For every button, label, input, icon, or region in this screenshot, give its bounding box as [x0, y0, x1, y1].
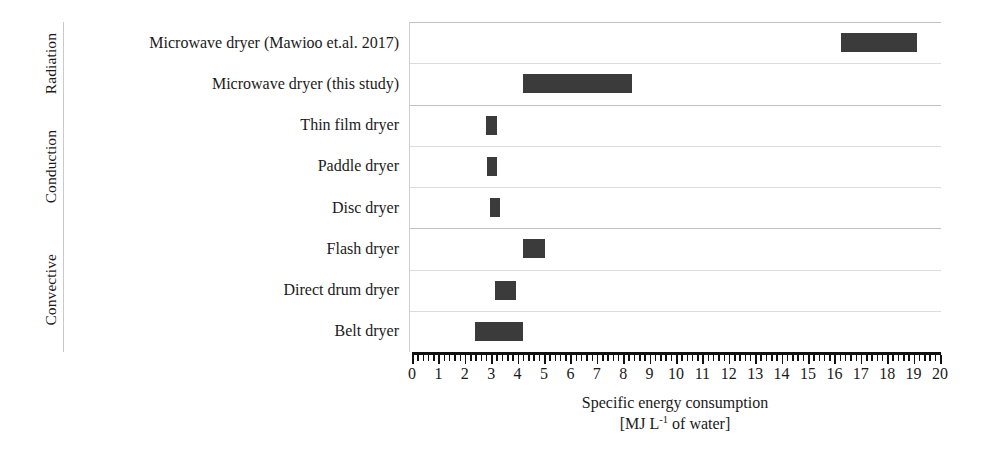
range-bar: [495, 281, 516, 300]
x-tick-minor: [523, 355, 525, 361]
x-tick-minor: [539, 355, 541, 361]
gridline: [410, 270, 941, 271]
x-tick-label: 2: [461, 366, 469, 382]
x-tick-minor: [845, 355, 847, 361]
range-bar: [487, 157, 498, 176]
x-tick-minor: [898, 355, 900, 361]
x-tick-minor: [829, 355, 831, 361]
x-tick-major: [597, 355, 599, 364]
x-tick-major: [491, 355, 493, 364]
x-tick-label: 13: [747, 366, 763, 382]
group-label-text: Conduction: [43, 130, 59, 203]
x-tick-minor: [592, 355, 594, 361]
x-tick-minor: [840, 355, 842, 361]
x-tick-minor: [797, 355, 799, 361]
x-tick-minor: [787, 355, 789, 361]
x-tick-major: [940, 355, 942, 364]
x-tick-label: 19: [906, 366, 922, 382]
x-axis-tick-labels: 01234567891011121314151617181920: [412, 366, 941, 388]
x-tick-major: [782, 355, 784, 364]
x-tick-label: 8: [619, 366, 627, 382]
x-tick-label: 9: [646, 366, 654, 382]
x-tick-minor: [449, 355, 451, 361]
x-tick-minor: [671, 355, 673, 361]
x-tick-label: 1: [434, 366, 442, 382]
x-tick-label: 6: [566, 366, 574, 382]
group-label-text: Radiation: [43, 33, 59, 94]
x-tick-minor: [750, 355, 752, 361]
x-tick-minor: [560, 355, 562, 361]
x-tick-minor: [850, 355, 852, 361]
x-axis-unit-suffix: of water]: [668, 415, 730, 432]
x-axis-ticks: [412, 355, 941, 364]
category-label-column: Microwave dryer (Mawioo et.al. 2017)Micr…: [64, 22, 409, 352]
x-tick-minor: [496, 355, 498, 361]
category-label: Direct drum dryer: [283, 270, 399, 310]
x-tick-major: [729, 355, 731, 364]
x-tick-label: 3: [487, 366, 495, 382]
x-tick-minor: [692, 355, 694, 361]
x-tick-major: [887, 355, 889, 364]
x-tick-major: [834, 355, 836, 364]
x-tick-major: [465, 355, 467, 364]
x-tick-minor: [423, 355, 425, 361]
range-bar: [523, 74, 633, 93]
x-tick-minor: [607, 355, 609, 361]
category-label: Flash dryer: [327, 229, 399, 269]
gridline: [410, 311, 941, 312]
x-axis-title-line1: Specific energy consumption: [409, 392, 941, 413]
x-tick-minor: [745, 355, 747, 361]
category-label: Microwave dryer (Mawioo et.al. 2017): [149, 23, 399, 63]
gridline: [410, 146, 941, 147]
x-tick-major: [702, 355, 704, 364]
category-label: Thin film dryer: [300, 105, 399, 145]
x-tick-minor: [444, 355, 446, 361]
x-tick-label: 4: [514, 366, 522, 382]
x-tick-label: 11: [695, 366, 710, 382]
x-tick-major: [676, 355, 678, 364]
x-tick-label: 0: [408, 366, 416, 382]
x-tick-label: 17: [853, 366, 869, 382]
x-tick-minor: [481, 355, 483, 361]
x-tick-label: 16: [826, 366, 842, 382]
range-bar: [841, 33, 918, 52]
x-tick-minor: [766, 355, 768, 361]
x-tick-major: [438, 355, 440, 364]
x-tick-minor: [776, 355, 778, 361]
gridline: [410, 228, 941, 229]
x-tick-minor: [655, 355, 657, 361]
x-tick-minor: [475, 355, 477, 361]
x-tick-label: 12: [721, 366, 737, 382]
x-axis-unit-prefix: [MJ L: [620, 415, 660, 432]
x-tick-minor: [586, 355, 588, 361]
x-tick-minor: [734, 355, 736, 361]
x-tick-label: 20: [932, 366, 948, 382]
gridline: [410, 63, 941, 64]
x-tick-minor: [924, 355, 926, 361]
x-tick-minor: [708, 355, 710, 361]
x-tick-minor: [919, 355, 921, 361]
x-tick-major: [808, 355, 810, 364]
x-tick-minor: [660, 355, 662, 361]
x-tick-major: [755, 355, 757, 364]
x-tick-minor: [824, 355, 826, 361]
x-tick-minor: [718, 355, 720, 361]
gridline: [410, 105, 941, 106]
plot-area: [409, 22, 941, 352]
x-tick-minor: [882, 355, 884, 361]
x-tick-label: 18: [879, 366, 895, 382]
x-tick-minor: [507, 355, 509, 361]
x-tick-minor: [565, 355, 567, 361]
range-bar: [523, 239, 545, 258]
x-tick-minor: [470, 355, 472, 361]
x-tick-minor: [628, 355, 630, 361]
group-label-radiation: Radiation: [38, 22, 64, 105]
x-tick-minor: [576, 355, 578, 361]
group-axis-column: RadiationConductionConvective: [38, 22, 64, 352]
category-label: Microwave dryer (this study): [212, 64, 399, 104]
x-tick-major: [544, 355, 546, 364]
x-tick-minor: [813, 355, 815, 361]
x-tick-minor: [739, 355, 741, 361]
x-tick-major: [412, 355, 414, 364]
x-tick-minor: [665, 355, 667, 361]
